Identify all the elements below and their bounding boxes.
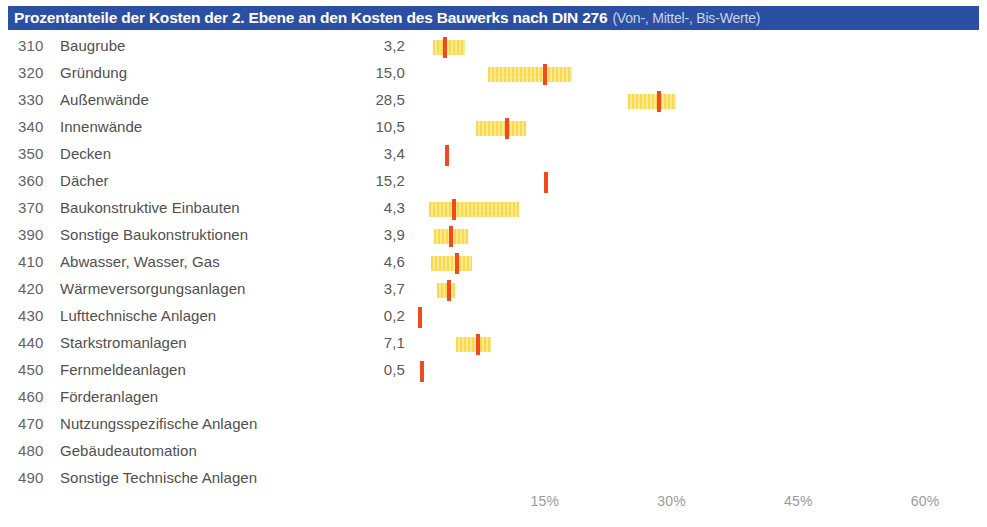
chart-row: 410Abwasser, Wasser, Gas4,6	[0, 250, 987, 277]
chart-row: 490Sonstige Technische Anlagen	[0, 466, 987, 493]
row-track	[0, 169, 987, 196]
row-track	[0, 385, 987, 412]
chart-row: 360Dächer15,2	[0, 169, 987, 196]
mid-value-marker	[445, 145, 449, 166]
row-track	[0, 223, 987, 250]
range-bar	[456, 337, 491, 352]
chart-row: 340Innenwände10,5	[0, 115, 987, 142]
axis-tick-label: 60%	[911, 493, 940, 509]
mid-value-marker	[420, 361, 424, 382]
row-track	[0, 88, 987, 115]
range-bar	[429, 202, 519, 217]
row-track	[0, 331, 987, 358]
chart-row: 390Sonstige Baukonstruktionen3,9	[0, 223, 987, 250]
chart-root: Prozentanteile der Kosten der 2. Ebene a…	[0, 0, 987, 527]
axis-tick-label: 15%	[530, 493, 559, 509]
mid-value-marker	[447, 280, 451, 301]
mid-value-marker	[505, 118, 509, 139]
row-track	[0, 358, 987, 385]
row-track	[0, 250, 987, 277]
chart-row: 450Fernmeldeanlagen0,5	[0, 358, 987, 385]
page-subtitle: (Von-, Mittel-, Bis-Werte)	[612, 10, 760, 26]
mid-value-marker	[418, 307, 422, 328]
row-track	[0, 466, 987, 493]
chart-row: 480Gebäudeautomation	[0, 439, 987, 466]
chart-row: 320Gründung15,0	[0, 61, 987, 88]
range-bar	[488, 67, 572, 82]
x-axis: 15%30%45%60%	[0, 493, 987, 517]
chart-row: 430Lufttechnische Anlagen0,2	[0, 304, 987, 331]
axis-tick-label: 45%	[784, 493, 813, 509]
chart-title-bar: Prozentanteile der Kosten der 2. Ebene a…	[8, 6, 979, 30]
chart-rows: 310Baugrube3,2320Gründung15,0330Außenwän…	[0, 34, 987, 493]
row-track	[0, 34, 987, 61]
chart-row: 370Baukonstruktive Einbauten4,3	[0, 196, 987, 223]
row-track	[0, 304, 987, 331]
row-track	[0, 277, 987, 304]
mid-value-marker	[543, 64, 547, 85]
mid-value-marker	[452, 199, 456, 220]
chart-row: 420Wärmeversorgungsanlagen3,7	[0, 277, 987, 304]
row-track	[0, 439, 987, 466]
row-track	[0, 115, 987, 142]
mid-value-marker	[657, 91, 661, 112]
mid-value-marker	[449, 226, 453, 247]
chart-row: 310Baugrube3,2	[0, 34, 987, 61]
range-bar	[628, 94, 676, 109]
row-track	[0, 142, 987, 169]
mid-value-marker	[476, 334, 480, 355]
mid-value-marker	[544, 172, 548, 193]
row-track	[0, 412, 987, 439]
axis-tick-label: 30%	[657, 493, 686, 509]
row-track	[0, 61, 987, 88]
range-bar	[476, 121, 526, 136]
chart-row: 460Förderanlagen	[0, 385, 987, 412]
row-track	[0, 196, 987, 223]
range-bar	[431, 256, 472, 271]
chart-row: 350Decken3,4	[0, 142, 987, 169]
mid-value-marker	[443, 37, 447, 58]
mid-value-marker	[455, 253, 459, 274]
range-bar	[433, 40, 465, 55]
page-title: Prozentanteile der Kosten der 2. Ebene a…	[14, 9, 607, 27]
chart-row: 330Außenwände28,5	[0, 88, 987, 115]
chart-row: 470Nutzungsspezifische Anlagen	[0, 412, 987, 439]
chart-row: 440Starkstromanlagen7,1	[0, 331, 987, 358]
